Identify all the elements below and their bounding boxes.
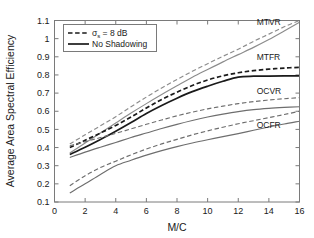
x-axis-label: M/C (167, 221, 187, 233)
spectral-efficiency-line-chart: Average Area Spectral Efficiency M/C 024… (0, 0, 314, 238)
x-tick-label: 0 (52, 206, 57, 216)
x-tick-label: 12 (233, 206, 243, 216)
annotation-mtvr: MTVR (257, 17, 281, 27)
y-axis-label: Average Area Spectral Efficiency (4, 34, 16, 187)
y-tick-label: 0.8 (37, 70, 50, 80)
x-tick-label: 4 (113, 206, 118, 216)
chart-figure: Average Area Spectral Efficiency M/C 024… (0, 0, 314, 238)
x-tick-label: 16 (294, 206, 304, 216)
legend-label-no-shadowing: No Shadowing (92, 39, 148, 49)
annotation-mtfr: MTFR (257, 52, 281, 62)
x-tick-label: 14 (264, 206, 274, 216)
curve-ocvr-solid (70, 107, 300, 158)
y-tick-label: 0.6 (37, 106, 50, 116)
x-tick-label: 6 (144, 206, 149, 216)
annotation-ocfr: OCFR (257, 120, 281, 130)
y-tick-label: 1 (44, 34, 49, 44)
y-tick-label: 0.9 (37, 52, 50, 62)
y-tick-label: 1.1 (37, 16, 50, 26)
y-tick-label: 0.2 (37, 179, 50, 189)
y-tick-label: 0.5 (37, 125, 50, 135)
y-tick-label: 0.3 (37, 161, 50, 171)
y-tick-label: 0.1 (37, 197, 50, 207)
x-tick-label: 8 (174, 206, 179, 216)
y-tick-label: 0.4 (37, 143, 50, 153)
curve-mtfr-dashed (70, 67, 300, 147)
chart-legend: σs = 8 dBNo Shadowing (64, 25, 157, 52)
x-tick-label: 10 (203, 206, 213, 216)
annotation-ocvr: OCVR (257, 86, 282, 96)
y-tick-label: 0.7 (37, 88, 50, 98)
x-tick-label: 2 (83, 206, 88, 216)
